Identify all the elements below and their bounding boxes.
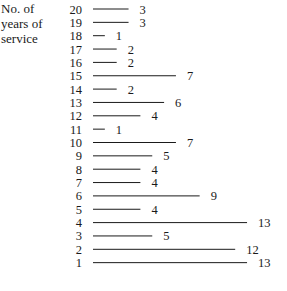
data-label: 2	[128, 56, 134, 70]
category-label: 1	[76, 256, 82, 270]
data-label: 1	[116, 29, 122, 43]
data-label: 4	[151, 163, 158, 177]
category-label: 5	[76, 203, 82, 217]
category-label: 16	[70, 56, 83, 70]
data-label: 4	[151, 203, 158, 217]
data-label: 6	[175, 96, 181, 110]
data-label: 13	[258, 256, 271, 270]
category-label: 10	[70, 136, 83, 150]
data-label: 12	[246, 243, 259, 257]
category-label: 3	[76, 229, 82, 243]
category-label: 2	[76, 243, 82, 257]
data-label: 3	[140, 3, 146, 17]
category-label: 12	[70, 109, 83, 123]
category-label: 6	[76, 189, 82, 203]
data-label: 4	[151, 176, 158, 190]
data-label: 3	[140, 16, 146, 30]
data-label: 2	[128, 43, 134, 57]
category-label: 15	[70, 69, 83, 83]
data-label: 4	[151, 109, 158, 123]
data-label: 5	[163, 229, 169, 243]
category-label: 8	[76, 163, 82, 177]
data-label: 7	[187, 69, 193, 83]
data-label: 5	[163, 149, 169, 163]
data-label: 13	[258, 216, 271, 230]
data-label: 7	[187, 136, 193, 150]
category-label: 17	[70, 43, 83, 57]
category-label: 11	[70, 123, 82, 137]
category-label: 14	[70, 83, 83, 97]
data-label: 2	[128, 83, 134, 97]
category-label: 7	[76, 176, 82, 190]
category-label: 4	[76, 216, 83, 230]
category-label: 19	[70, 16, 83, 30]
category-label: 13	[70, 96, 83, 110]
bar-chart: 2031931811721621571421361241111079584746…	[0, 0, 287, 291]
category-label: 20	[70, 3, 83, 17]
data-label: 1	[116, 123, 122, 137]
data-label: 9	[211, 189, 217, 203]
category-label: 18	[70, 29, 83, 43]
category-label: 9	[76, 149, 82, 163]
